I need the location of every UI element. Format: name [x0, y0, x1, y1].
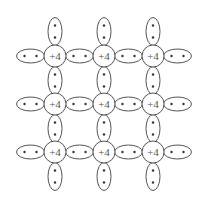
bond-ellipse	[97, 18, 111, 46]
bond-ellipse	[17, 97, 45, 111]
core-charge-label: +4	[49, 98, 61, 110]
electron-dot	[103, 85, 105, 87]
electron-dot	[170, 55, 172, 57]
electron-dot	[170, 103, 172, 105]
electron-dot	[121, 151, 123, 153]
electron-dot	[152, 121, 154, 123]
electron-dot	[121, 55, 123, 57]
core-charge-label: +4	[147, 146, 159, 158]
electron-dot	[54, 85, 56, 87]
electron-dot	[152, 181, 154, 183]
electron-dot	[23, 55, 25, 57]
electron-dot	[103, 24, 105, 26]
electron-dot	[182, 55, 184, 57]
bond-ellipse	[97, 163, 111, 191]
electron-dot	[54, 24, 56, 26]
electron-dot	[103, 36, 105, 38]
bond-ellipse	[48, 115, 62, 143]
bond-ellipse	[48, 163, 62, 191]
electron-dot	[54, 169, 56, 171]
electron-dot	[35, 151, 37, 153]
electron-dot	[84, 151, 86, 153]
electron-dot	[23, 151, 25, 153]
electron-dot	[72, 103, 74, 105]
core-charge-label: +4	[49, 146, 61, 158]
electron-dot	[54, 121, 56, 123]
electron-dot	[152, 85, 154, 87]
electron-dot	[54, 181, 56, 183]
bond-ellipse	[146, 18, 160, 46]
bond-ellipse	[146, 67, 160, 95]
electron-dot	[152, 133, 154, 135]
electron-dot	[54, 133, 56, 135]
bond-ellipse	[97, 67, 111, 95]
core-charge-label: +4	[98, 146, 110, 158]
electron-dot	[133, 55, 135, 57]
electron-dot	[72, 151, 74, 153]
electron-dot	[54, 36, 56, 38]
electron-dot	[103, 133, 105, 135]
electron-dot	[84, 103, 86, 105]
bond-ellipse	[164, 97, 192, 111]
bond-ellipse	[17, 49, 45, 63]
electron-dot	[72, 55, 74, 57]
electron-dot	[133, 151, 135, 153]
electron-dot	[103, 169, 105, 171]
bond-ellipse	[115, 97, 143, 111]
electron-dot	[121, 103, 123, 105]
bond-ellipse	[97, 115, 111, 143]
electron-dot	[103, 73, 105, 75]
bond-ellipse	[66, 145, 94, 159]
bond-ellipse	[164, 145, 192, 159]
electron-dot	[103, 181, 105, 183]
bond-ellipse	[164, 49, 192, 63]
core-charge-label: +4	[147, 50, 159, 62]
bond-ellipse	[146, 115, 160, 143]
core-charge-label: +4	[49, 50, 61, 62]
electron-dot	[84, 55, 86, 57]
bond-ellipse	[115, 49, 143, 63]
electron-dot	[35, 103, 37, 105]
electron-dot	[170, 151, 172, 153]
core-charge-label: +4	[147, 98, 159, 110]
bond-ellipse	[66, 49, 94, 63]
bond-ellipse	[48, 67, 62, 95]
core-charge-label: +4	[98, 50, 110, 62]
bond-ellipse	[146, 163, 160, 191]
bond-ellipse	[115, 145, 143, 159]
electron-dot	[23, 103, 25, 105]
electron-dot	[54, 73, 56, 75]
electron-dot	[152, 169, 154, 171]
electron-dot	[152, 73, 154, 75]
electron-dot	[133, 103, 135, 105]
electron-dot	[152, 24, 154, 26]
bond-ellipse	[66, 97, 94, 111]
crystal-lattice-diagram: +4+4+4+4+4+4+4+4+4	[0, 0, 204, 210]
electron-dot	[103, 121, 105, 123]
bond-ellipse	[48, 18, 62, 46]
electron-dot	[182, 103, 184, 105]
bond-ellipse	[17, 145, 45, 159]
electron-dot	[182, 151, 184, 153]
electron-dot	[152, 36, 154, 38]
electron-dot	[35, 55, 37, 57]
core-charge-label: +4	[98, 98, 110, 110]
